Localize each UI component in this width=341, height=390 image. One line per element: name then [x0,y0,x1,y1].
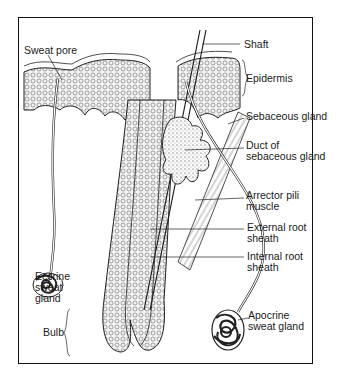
apocrine-sweat-gland [212,310,244,350]
label-epidermis: Epidermis [246,73,293,84]
label-bulb: Bulb [43,327,64,338]
label-arrector-pili-muscle: Arrector pili muscle [246,190,299,212]
label-eccrine-sweat-gland: Eccrine sweat gland [35,271,70,304]
label-shaft: Shaft [244,39,269,50]
label-duct-of-sebaceous-gland: Duct of sebaceous gland [246,140,325,162]
label-external-root-sheath: External root sheath [247,222,307,244]
label-sebaceous-gland: Sebaceous gland [246,111,327,122]
label-apocrine-sweat-gland: Apocrine sweat gland [248,310,304,332]
label-sweat-pore: Sweat pore [24,45,77,56]
sebaceous-gland [163,117,211,184]
label-internal-root-sheath: Internal root sheath [247,251,303,273]
